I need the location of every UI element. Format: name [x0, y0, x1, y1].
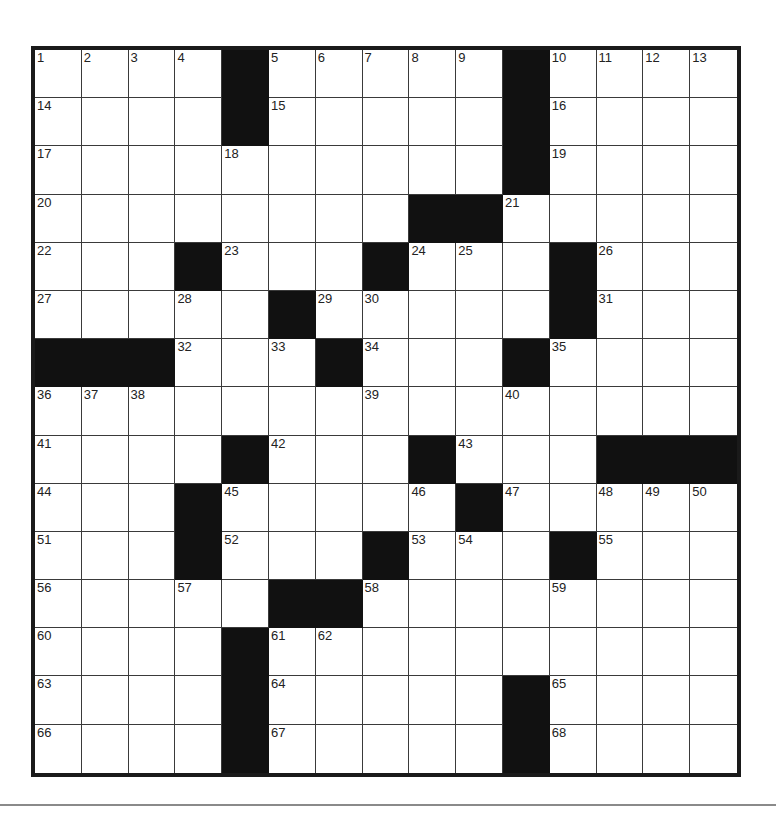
grid-cell[interactable] [690, 532, 737, 580]
grid-cell[interactable] [503, 580, 550, 628]
grid-cell[interactable]: 5 [269, 50, 316, 98]
grid-cell[interactable]: 55 [597, 532, 644, 580]
grid-cell[interactable] [409, 291, 456, 339]
grid-cell[interactable]: 12 [643, 50, 690, 98]
grid-cell[interactable]: 30 [363, 291, 410, 339]
grid-cell[interactable]: 3 [129, 50, 176, 98]
grid-cell[interactable] [129, 580, 176, 628]
grid-cell[interactable]: 20 [35, 195, 82, 243]
grid-cell[interactable] [316, 98, 363, 146]
grid-cell[interactable] [363, 484, 410, 532]
grid-cell[interactable] [597, 580, 644, 628]
grid-cell[interactable]: 6 [316, 50, 363, 98]
grid-cell[interactable] [175, 725, 222, 773]
grid-cell[interactable] [222, 580, 269, 628]
grid-cell[interactable]: 67 [269, 725, 316, 773]
grid-cell[interactable]: 25 [456, 243, 503, 291]
grid-cell[interactable]: 52 [222, 532, 269, 580]
grid-cell[interactable] [643, 146, 690, 194]
grid-cell[interactable]: 9 [456, 50, 503, 98]
grid-cell[interactable]: 61 [269, 628, 316, 676]
grid-cell[interactable]: 59 [550, 580, 597, 628]
grid-cell[interactable]: 2 [82, 50, 129, 98]
grid-cell[interactable]: 10 [550, 50, 597, 98]
grid-cell[interactable]: 34 [363, 339, 410, 387]
grid-cell[interactable] [409, 98, 456, 146]
grid-cell[interactable]: 51 [35, 532, 82, 580]
grid-cell[interactable] [690, 243, 737, 291]
grid-cell[interactable] [550, 484, 597, 532]
grid-cell[interactable] [409, 146, 456, 194]
grid-cell[interactable] [643, 98, 690, 146]
grid-cell[interactable] [129, 291, 176, 339]
grid-cell[interactable] [690, 195, 737, 243]
grid-cell[interactable]: 11 [597, 50, 644, 98]
grid-cell[interactable] [643, 676, 690, 724]
grid-cell[interactable] [597, 676, 644, 724]
grid-cell[interactable] [129, 484, 176, 532]
grid-cell[interactable] [82, 628, 129, 676]
grid-cell[interactable] [363, 146, 410, 194]
grid-cell[interactable]: 36 [35, 387, 82, 435]
grid-cell[interactable]: 44 [35, 484, 82, 532]
grid-cell[interactable]: 27 [35, 291, 82, 339]
grid-cell[interactable]: 60 [35, 628, 82, 676]
grid-cell[interactable]: 56 [35, 580, 82, 628]
grid-cell[interactable]: 62 [316, 628, 363, 676]
grid-cell[interactable] [129, 146, 176, 194]
grid-cell[interactable] [690, 291, 737, 339]
grid-cell[interactable]: 23 [222, 243, 269, 291]
grid-cell[interactable] [690, 146, 737, 194]
grid-cell[interactable]: 38 [129, 387, 176, 435]
grid-cell[interactable] [690, 339, 737, 387]
grid-cell[interactable] [129, 628, 176, 676]
grid-cell[interactable] [363, 676, 410, 724]
grid-cell[interactable] [409, 725, 456, 773]
grid-cell[interactable] [175, 195, 222, 243]
grid-cell[interactable]: 53 [409, 532, 456, 580]
grid-cell[interactable] [690, 580, 737, 628]
grid-cell[interactable] [643, 339, 690, 387]
grid-cell[interactable]: 50 [690, 484, 737, 532]
grid-cell[interactable] [456, 98, 503, 146]
grid-cell[interactable]: 28 [175, 291, 222, 339]
grid-cell[interactable]: 48 [597, 484, 644, 532]
grid-cell[interactable]: 63 [35, 676, 82, 724]
grid-cell[interactable]: 17 [35, 146, 82, 194]
grid-cell[interactable] [82, 146, 129, 194]
grid-cell[interactable] [82, 436, 129, 484]
grid-cell[interactable] [129, 195, 176, 243]
grid-cell[interactable] [129, 436, 176, 484]
grid-cell[interactable]: 29 [316, 291, 363, 339]
grid-cell[interactable] [363, 195, 410, 243]
grid-cell[interactable] [316, 532, 363, 580]
grid-cell[interactable] [456, 146, 503, 194]
grid-cell[interactable]: 68 [550, 725, 597, 773]
grid-cell[interactable] [456, 725, 503, 773]
grid-cell[interactable] [503, 291, 550, 339]
grid-cell[interactable] [222, 387, 269, 435]
grid-cell[interactable]: 65 [550, 676, 597, 724]
grid-cell[interactable] [129, 98, 176, 146]
grid-cell[interactable] [456, 676, 503, 724]
grid-cell[interactable] [316, 725, 363, 773]
grid-cell[interactable] [316, 195, 363, 243]
grid-cell[interactable] [643, 580, 690, 628]
grid-cell[interactable]: 41 [35, 436, 82, 484]
grid-cell[interactable] [82, 580, 129, 628]
grid-cell[interactable] [222, 291, 269, 339]
grid-cell[interactable] [409, 628, 456, 676]
grid-cell[interactable]: 22 [35, 243, 82, 291]
grid-cell[interactable] [409, 339, 456, 387]
grid-cell[interactable] [409, 580, 456, 628]
grid-cell[interactable] [269, 195, 316, 243]
grid-cell[interactable]: 35 [550, 339, 597, 387]
grid-cell[interactable]: 8 [409, 50, 456, 98]
grid-cell[interactable] [409, 676, 456, 724]
grid-cell[interactable] [175, 146, 222, 194]
grid-cell[interactable] [690, 98, 737, 146]
grid-cell[interactable] [456, 580, 503, 628]
grid-cell[interactable] [643, 532, 690, 580]
grid-cell[interactable] [316, 436, 363, 484]
grid-cell[interactable] [222, 339, 269, 387]
